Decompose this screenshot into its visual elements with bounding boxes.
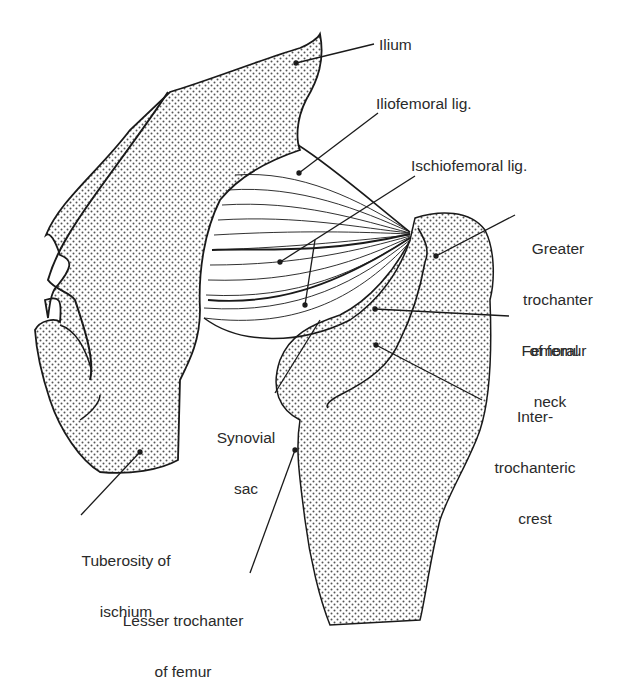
label-line: sac [210,480,282,497]
label-line: Lesser trochanter [103,612,263,629]
label-intertrochanteric-crest: Inter- trochanteric crest [485,374,585,544]
label-line: trochanteric [485,459,585,476]
label-line: Synovial [210,429,282,446]
label-line: trochanter [508,291,608,308]
label-line: Femoral [510,342,590,359]
label-line: Greater [508,240,608,257]
label-lesser-trochanter: Lesser trochanter of femur [103,578,263,681]
label-ischiofemoral-ligament: Ischiofemoral lig. [411,157,527,174]
femur-bone [276,213,493,625]
label-ilium: Ilium [379,36,412,53]
label-line: Inter- [485,408,585,425]
label-line: Tuberosity of [66,552,186,569]
label-synovial-sac: Synovial sac [210,395,282,514]
label-line: of femur [103,663,263,680]
label-iliofemoral-ligament: Iliofemoral lig. [376,95,472,112]
label-line: crest [485,510,585,527]
